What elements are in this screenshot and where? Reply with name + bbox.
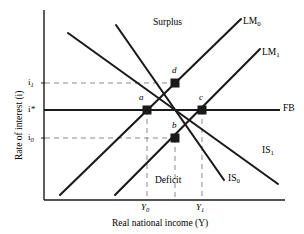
curve-is1 bbox=[68, 33, 278, 184]
point-marker-d bbox=[171, 79, 180, 88]
chart-canvas bbox=[0, 0, 304, 234]
region-label-surplus: Surplus bbox=[153, 18, 182, 28]
y-tick-label-i1: i1 bbox=[28, 78, 34, 87]
point-label-a: a bbox=[139, 93, 144, 102]
point-label-c: c bbox=[199, 93, 203, 102]
point-marker-b bbox=[171, 134, 180, 143]
curve-label-lm1: LM1 bbox=[262, 48, 280, 58]
curve-label-is1: IS1 bbox=[262, 146, 274, 156]
curve-label-lm0: LM0 bbox=[243, 17, 261, 27]
point-label-d: d bbox=[172, 66, 177, 75]
y-tick-label-i0: i0 bbox=[28, 133, 34, 142]
y-axis-title: Rate of interest (i) bbox=[14, 91, 24, 160]
point-marker-a bbox=[143, 106, 152, 115]
region-label-deficit: Deficit bbox=[155, 176, 181, 186]
curve-label-is0: IS0 bbox=[228, 174, 240, 184]
x-tick-label-Y0: Y0 bbox=[141, 203, 149, 212]
isml-fb-diagram: Rate of interest (i) Real national incom… bbox=[0, 0, 304, 234]
x-axis-title: Real national income (Y) bbox=[112, 219, 208, 229]
point-marker-c bbox=[198, 106, 207, 115]
x-tick-label-Y1: Y1 bbox=[196, 203, 204, 212]
curve-label-fb: FB bbox=[283, 104, 295, 114]
point-label-b: b bbox=[172, 121, 177, 130]
y-tick-label-istar: i* bbox=[28, 105, 35, 114]
